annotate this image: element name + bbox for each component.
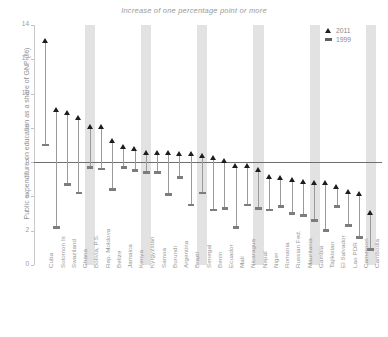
x-axis-label: Cambodia bbox=[373, 239, 380, 268]
marker-2011 bbox=[232, 163, 238, 168]
connector-stem bbox=[292, 181, 293, 214]
marker-2011 bbox=[64, 110, 70, 115]
marker-2011 bbox=[322, 180, 328, 185]
y-tick-label: 2 bbox=[25, 226, 29, 233]
x-axis-label: Jamaica bbox=[126, 244, 133, 268]
y-tick-mark bbox=[31, 231, 34, 232]
x-axis-label: Brazil bbox=[193, 252, 200, 268]
x-axis-label: Tajikistan bbox=[328, 242, 335, 268]
y-tick-mark bbox=[31, 59, 34, 60]
marker-1999 bbox=[64, 183, 71, 186]
x-axis-label: Gambia bbox=[317, 246, 324, 268]
x-axis-label: Bolivia, P.S. bbox=[92, 234, 99, 268]
marker-2011 bbox=[333, 184, 339, 189]
marker-2011 bbox=[75, 115, 81, 120]
marker-2011 bbox=[221, 158, 227, 163]
education-expenditure-chart: Increase of one percentage point or more… bbox=[0, 0, 388, 337]
y-tick: 12 bbox=[34, 59, 382, 60]
connector-stem bbox=[56, 111, 57, 228]
marker-1999 bbox=[289, 212, 296, 215]
marker-1999 bbox=[76, 192, 83, 195]
y-tick: 10 bbox=[34, 94, 382, 95]
connector-stem bbox=[101, 128, 102, 169]
dash-icon bbox=[322, 38, 334, 41]
marker-1999 bbox=[199, 192, 206, 195]
y-tick: 2 bbox=[34, 231, 382, 232]
marker-1999 bbox=[53, 226, 60, 229]
marker-2011 bbox=[143, 150, 149, 155]
x-axis-label: Mauritania bbox=[306, 238, 313, 268]
x-axis-label: El Salvador bbox=[339, 235, 346, 268]
x-axis-label: Lao PDR bbox=[351, 242, 358, 268]
marker-1999 bbox=[311, 219, 318, 222]
x-axis-label: Romania bbox=[283, 243, 290, 268]
marker-2011 bbox=[188, 151, 194, 156]
marker-1999 bbox=[154, 171, 161, 174]
marker-1999 bbox=[42, 144, 49, 147]
connector-stem bbox=[247, 167, 248, 205]
y-tick-label: 14 bbox=[22, 20, 29, 27]
x-axis-label: Cameroon bbox=[362, 238, 369, 268]
connector-stem bbox=[224, 162, 225, 208]
connector-stem bbox=[179, 155, 180, 177]
band-marker bbox=[253, 25, 263, 265]
marker-1999 bbox=[210, 209, 217, 212]
band-marker bbox=[310, 25, 320, 265]
marker-2011 bbox=[109, 138, 115, 143]
chart-legend: 2011 1999 bbox=[322, 26, 351, 44]
marker-2011 bbox=[87, 124, 93, 129]
marker-2011 bbox=[311, 180, 317, 185]
x-axis-label: Ecuador bbox=[227, 244, 234, 268]
connector-stem bbox=[112, 142, 113, 190]
legend-label-1999: 1999 bbox=[336, 36, 351, 43]
marker-1999 bbox=[109, 188, 116, 191]
x-axis-label: Belize bbox=[115, 251, 122, 268]
marker-2011 bbox=[300, 179, 306, 184]
marker-2011 bbox=[199, 153, 205, 158]
x-axis-label: Burundi bbox=[171, 246, 178, 268]
marker-2011 bbox=[210, 155, 216, 160]
marker-1999 bbox=[222, 207, 229, 210]
y-axis-line bbox=[34, 25, 35, 265]
connector-stem bbox=[202, 157, 203, 193]
connector-stem bbox=[370, 214, 371, 250]
x-axis-labels: CubaSolomon IsSwazilandGhanaBolivia, P.S… bbox=[34, 266, 382, 337]
connector-stem bbox=[157, 154, 158, 173]
y-tick-mark bbox=[31, 128, 34, 129]
x-axis-label: Niger bbox=[272, 253, 279, 268]
x-axis-label: Swaziland bbox=[70, 239, 77, 268]
x-axis-label: Mali bbox=[238, 256, 245, 268]
band-marker bbox=[197, 25, 207, 265]
marker-1999 bbox=[121, 166, 128, 169]
chart-title: Increase of one percentage point or more bbox=[0, 6, 388, 15]
marker-2011 bbox=[53, 107, 59, 112]
x-axis-label: Benin bbox=[216, 252, 223, 268]
x-axis-label: Russian Fed. bbox=[294, 230, 301, 268]
marker-1999 bbox=[278, 205, 285, 208]
marker-2011 bbox=[244, 163, 250, 168]
marker-1999 bbox=[334, 205, 341, 208]
legend-entry-2011: 2011 bbox=[322, 26, 351, 35]
connector-stem bbox=[90, 128, 91, 167]
marker-2011 bbox=[98, 124, 104, 129]
connector-stem bbox=[213, 159, 214, 210]
connector-stem bbox=[67, 114, 68, 184]
x-axis-label: Rep. Moldova bbox=[104, 229, 111, 268]
marker-1999 bbox=[244, 204, 251, 207]
plot-area: 02468101214 bbox=[34, 25, 382, 265]
marker-1999 bbox=[233, 226, 240, 229]
connector-stem bbox=[45, 42, 46, 145]
marker-1999 bbox=[165, 193, 172, 196]
connector-stem bbox=[269, 178, 270, 211]
marker-1999 bbox=[266, 209, 273, 212]
connector-stem bbox=[258, 171, 259, 209]
y-tick: 4 bbox=[34, 196, 382, 197]
triangle-up-icon bbox=[322, 28, 334, 33]
marker-2011 bbox=[266, 174, 272, 179]
connector-stem bbox=[359, 195, 360, 238]
connector-stem bbox=[303, 183, 304, 216]
marker-2011 bbox=[277, 175, 283, 180]
y-tick-label: 12 bbox=[22, 54, 29, 61]
connector-stem bbox=[280, 179, 281, 206]
connector-stem bbox=[168, 154, 169, 195]
